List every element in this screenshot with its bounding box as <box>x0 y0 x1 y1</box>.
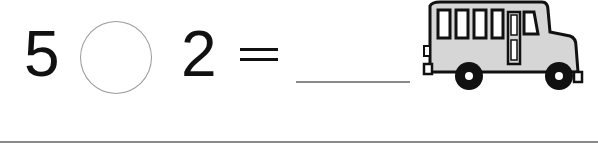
answer-blank-line[interactable] <box>296 81 410 83</box>
left-operand: 5 <box>24 22 60 86</box>
operator-circle-blank[interactable] <box>80 21 152 94</box>
school-bus-icon <box>420 0 588 94</box>
right-operand: 2 <box>181 22 217 86</box>
writing-rule-line <box>0 141 598 143</box>
equals-sign <box>240 46 278 60</box>
